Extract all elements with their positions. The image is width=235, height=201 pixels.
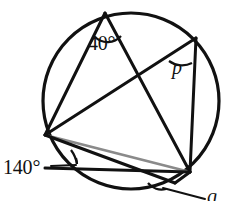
- angle-arc-140-extra: [76, 158, 77, 164]
- leader-line-140: [51, 165, 76, 166]
- geometry-figure: 40° p 140° q: [0, 0, 235, 201]
- chord-top-to-lower-right: [105, 13, 190, 172]
- angle-label-q: q: [207, 186, 217, 201]
- chord-left-to-lower-right-flat: [45, 168, 190, 172]
- leader-line-q: [163, 188, 205, 199]
- angle-label-p: p: [172, 57, 182, 77]
- chord-left-to-lower-right-gray: [45, 135, 190, 172]
- chord-upper-right-to-lower-right: [190, 38, 196, 172]
- angle-label-140: 140°: [3, 157, 40, 177]
- angle-label-40: 40°: [88, 33, 115, 53]
